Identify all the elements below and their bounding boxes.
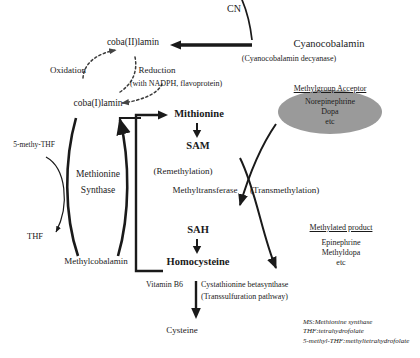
- abbreviation-0: MS:Methionine synthase: [303, 318, 409, 327]
- methionine-synthase-enzyme-line1: Methionine: [76, 170, 120, 180]
- abbreviation-2: 5-methyl-THF:methyltetrahydrofolate: [303, 337, 409, 346]
- methylated-product-item-2: etc: [321, 258, 360, 268]
- reduction-cofactors-label: (with NADPH, flavoprotein): [130, 80, 222, 88]
- methionine-to-sam-arrow: [193, 123, 201, 138]
- transsulfuration-pathway-label: (Transsulfuration pathway): [201, 293, 288, 301]
- abbreviations-legend: MS:Methionine synthase THF:tetrahydrofol…: [303, 318, 409, 346]
- methionine-label: Mithionine: [174, 108, 224, 119]
- methyltransferase-label: Methyltransferase: [173, 186, 238, 195]
- methionine-synthase-enzyme-line2: Synthase: [81, 186, 115, 196]
- sah-label: SAH: [187, 224, 209, 235]
- methylcobalamin-to-cobalamin-arc: [118, 120, 127, 256]
- cobaII-lamin-label: coba(II)lamin: [107, 38, 159, 48]
- cystathionine-betasynthase-label: Cystathionine betasynthase: [201, 281, 288, 289]
- cn-label: CN: [227, 4, 241, 15]
- cysteine-label: Cysteine: [166, 326, 198, 335]
- cyanocobalamin-label: Cyanocobalamin: [293, 38, 364, 49]
- methylated-product-item-1: Methyldopa: [321, 248, 360, 258]
- sam-label: SAM: [186, 140, 209, 151]
- remethylation-bracket: [136, 111, 168, 271]
- thf-label: THF: [27, 232, 43, 241]
- oxidation-arrow: [83, 50, 116, 78]
- reduction-label: Reduction: [139, 66, 176, 75]
- acceptor-item-2: etc: [305, 117, 355, 127]
- methylcobalamin-label: Methylcobalamin: [64, 257, 127, 266]
- methylgroup-acceptor-heading: Methylgroup Acceptor: [294, 85, 367, 93]
- sam-to-methylated-product-arrow: [240, 158, 276, 268]
- cobaI-lamin-label: coba(I)lamin: [73, 99, 122, 109]
- sah-to-homocysteine-arrow: [193, 239, 201, 254]
- decyanase-arrow: [170, 40, 252, 49]
- oxidation-label: Oxidation: [50, 66, 86, 75]
- remethylation-label: (Remethylation): [154, 167, 213, 176]
- methyl-thf-transfer-arrow: [46, 157, 64, 232]
- homocysteine-label: Homocysteine: [167, 256, 230, 267]
- methylgroup-acceptor-items: Norepinephrine Dopa etc: [305, 97, 355, 126]
- transmethylation-label: (Transmethylation): [250, 186, 319, 195]
- methylated-product-items: Epinephrine Methyldopa etc: [321, 238, 360, 267]
- pathway-diagram: CN Cyanocobalamin (Cyanocobalamin decyan…: [0, 0, 420, 358]
- methylated-product-heading: Methylated product: [310, 224, 373, 232]
- diagram-vector-layer: [0, 0, 420, 358]
- acceptor-item-0: Norepinephrine: [305, 97, 355, 107]
- cobalamin-to-methylcobalamin-arc: [67, 118, 78, 256]
- acceptor-item-1: Dopa: [305, 107, 355, 117]
- methylated-product-item-0: Epinephrine: [321, 238, 360, 248]
- 5-methyl-thf-label: 5-methy-THF: [13, 141, 55, 149]
- cyanocobalamin-decyanase-label: (Cyanocobalamin decyanase): [242, 55, 336, 63]
- transsulfuration-arrow: [191, 281, 201, 319]
- abbreviation-1: THF:tetrahydrofolate: [303, 327, 409, 336]
- vitamin-b6-label: Vitamin B6: [146, 281, 183, 289]
